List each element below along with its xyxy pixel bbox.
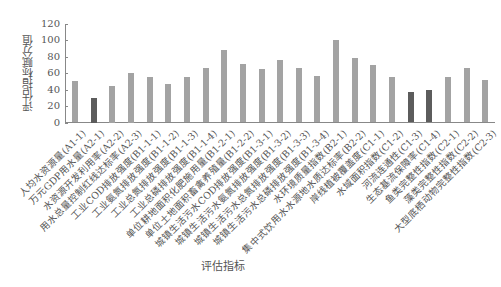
bar: [389, 77, 395, 122]
y-tick-label: 120: [30, 19, 60, 29]
y-tick-mark: [65, 73, 68, 74]
y-tick-mark: [65, 123, 68, 124]
bar: [240, 64, 246, 122]
bar: [109, 86, 115, 123]
y-tick-mark: [65, 40, 68, 41]
x-axis-title: 评估指标: [193, 257, 253, 273]
y-tick-mark: [65, 57, 68, 58]
bar: [408, 92, 414, 122]
y-tick-label: 0: [30, 118, 60, 128]
bar: [221, 50, 227, 122]
bar-chart: 评估指标赋分值 020406080100120 人均水资源量(A1-1)万元GD…: [0, 0, 501, 287]
bar: [352, 58, 358, 123]
bar: [296, 68, 302, 122]
bar: [259, 69, 265, 122]
bar: [165, 84, 171, 123]
bar: [464, 68, 470, 122]
bar: [72, 81, 78, 122]
y-tick-mark: [65, 90, 68, 91]
bar: [314, 76, 320, 123]
bar: [91, 98, 97, 123]
bar: [147, 77, 153, 122]
bar: [277, 60, 283, 122]
y-tick-label: 80: [30, 52, 60, 62]
bar: [370, 65, 376, 122]
bar: [482, 80, 488, 123]
y-tick-label: 20: [30, 101, 60, 111]
bar: [203, 68, 209, 122]
y-tick-label: 60: [30, 68, 60, 78]
bar: [333, 40, 339, 122]
y-tick-label: 40: [30, 85, 60, 95]
bar: [426, 90, 432, 123]
y-tick-mark: [65, 106, 68, 107]
bar: [184, 77, 190, 122]
bar: [128, 73, 134, 122]
bar: [445, 77, 451, 122]
y-tick-mark: [65, 24, 68, 25]
y-tick-label: 100: [30, 35, 60, 45]
